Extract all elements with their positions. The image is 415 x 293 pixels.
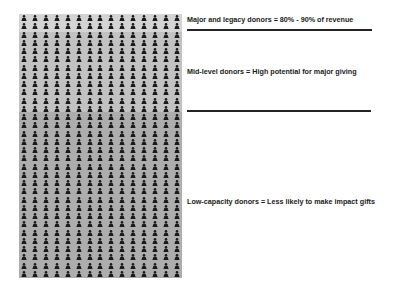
- person-icon: [52, 22, 63, 30]
- person-icon: [41, 97, 52, 105]
- person-icon: [84, 253, 95, 261]
- person-icon: [84, 88, 95, 96]
- person-icon: [106, 204, 117, 212]
- person-icon: [117, 88, 128, 96]
- person-icon: [41, 146, 52, 154]
- person-icon: [171, 47, 182, 55]
- person-icon: [160, 204, 171, 212]
- person-icon: [160, 130, 171, 138]
- person-icon: [52, 47, 63, 55]
- person-icon: [139, 179, 150, 187]
- person-icon: [19, 97, 30, 105]
- person-icon: [73, 146, 84, 154]
- person-icon: [128, 154, 139, 162]
- person-icon: [41, 212, 52, 220]
- person-icon: [19, 196, 30, 204]
- person-icon: [139, 88, 150, 96]
- person-icon: [149, 262, 160, 270]
- person-icon: [160, 253, 171, 261]
- person-icon: [128, 14, 139, 22]
- person-icon: [149, 212, 160, 220]
- person-icon: [73, 88, 84, 96]
- person-icon: [95, 97, 106, 105]
- person-icon: [95, 55, 106, 63]
- person-icon: [139, 97, 150, 105]
- person-icon: [52, 229, 63, 237]
- person-icon: [171, 196, 182, 204]
- person-icon: [62, 262, 73, 270]
- person-icon: [52, 39, 63, 47]
- person-icon: [106, 220, 117, 228]
- person-icon: [171, 72, 182, 80]
- person-icon: [19, 220, 30, 228]
- person-icon: [106, 138, 117, 146]
- person-icon: [62, 229, 73, 237]
- person-icon: [62, 237, 73, 245]
- person-icon: [128, 196, 139, 204]
- person-icon: [171, 80, 182, 88]
- person-icon: [41, 113, 52, 121]
- person-icon: [19, 55, 30, 63]
- person-icon: [62, 88, 73, 96]
- person-icon: [30, 88, 41, 96]
- person-icon: [84, 113, 95, 121]
- person-icon: [117, 171, 128, 179]
- person-icon: [95, 72, 106, 80]
- person-icon: [84, 237, 95, 245]
- person-icon: [62, 22, 73, 30]
- person-icon: [73, 270, 84, 278]
- label-major-donors: Major and legacy donors = 80% - 90% of r…: [187, 15, 353, 24]
- person-icon: [19, 31, 30, 39]
- person-icon: [149, 88, 160, 96]
- person-icon: [52, 64, 63, 72]
- person-icon: [149, 229, 160, 237]
- person-icon: [149, 163, 160, 171]
- person-icon: [95, 187, 106, 195]
- person-icon: [19, 14, 30, 22]
- person-icon: [84, 154, 95, 162]
- person-icon: [106, 130, 117, 138]
- person-icon: [160, 196, 171, 204]
- person-icon: [117, 262, 128, 270]
- person-icon: [128, 237, 139, 245]
- person-icon: [19, 146, 30, 154]
- person-icon: [52, 97, 63, 105]
- person-icon: [106, 97, 117, 105]
- person-icon: [52, 121, 63, 129]
- person-icon: [52, 196, 63, 204]
- person-icon: [30, 55, 41, 63]
- person-icon: [139, 262, 150, 270]
- person-icon: [106, 270, 117, 278]
- person-icon: [62, 171, 73, 179]
- person-icon: [149, 245, 160, 253]
- person-icon: [84, 47, 95, 55]
- person-icon: [84, 270, 95, 278]
- person-icon: [128, 105, 139, 113]
- person-icon: [95, 154, 106, 162]
- person-icon: [160, 64, 171, 72]
- person-icon: [171, 212, 182, 220]
- person-icon: [73, 113, 84, 121]
- person-icon: [84, 72, 95, 80]
- person-icon: [139, 212, 150, 220]
- person-icon: [41, 187, 52, 195]
- person-icon: [19, 130, 30, 138]
- person-icon: [62, 31, 73, 39]
- person-icon: [139, 39, 150, 47]
- person-icon: [106, 80, 117, 88]
- person-icon: [171, 113, 182, 121]
- person-icon: [19, 179, 30, 187]
- person-icon: [30, 138, 41, 146]
- person-icon: [106, 253, 117, 261]
- person-icon-grid: [19, 14, 182, 278]
- person-icon: [30, 97, 41, 105]
- person-icon: [52, 212, 63, 220]
- person-icon: [73, 72, 84, 80]
- person-icon: [95, 22, 106, 30]
- person-icon: [171, 146, 182, 154]
- person-icon: [128, 187, 139, 195]
- person-icon: [95, 64, 106, 72]
- person-icon: [160, 97, 171, 105]
- person-icon: [117, 130, 128, 138]
- person-icon: [41, 130, 52, 138]
